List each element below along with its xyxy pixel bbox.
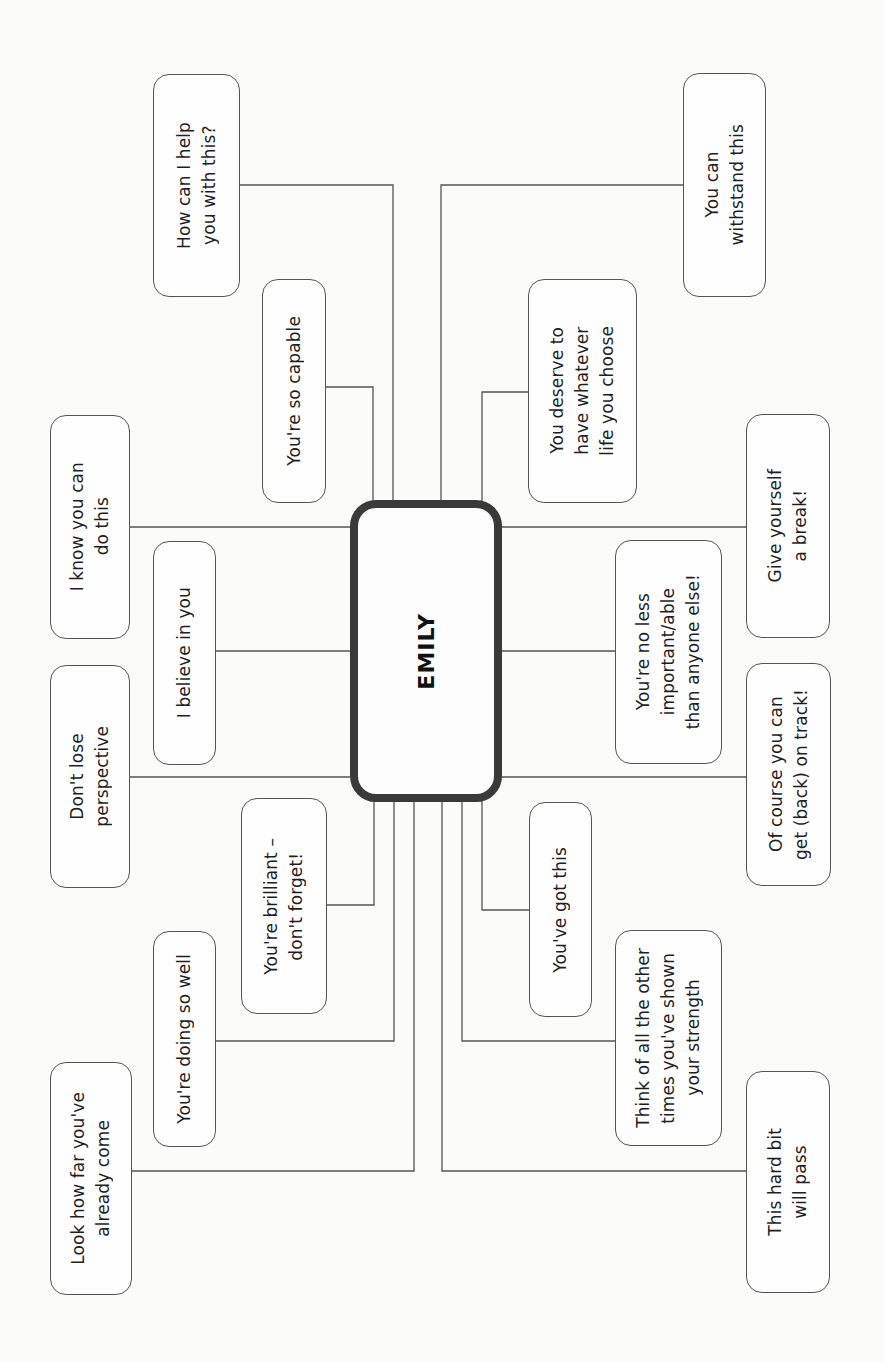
node-i-believe-in-you: I believe in you — [153, 541, 216, 765]
node-label: Of course you can get (back) on track! — [764, 689, 814, 860]
node-label: You can withstand this — [700, 124, 750, 245]
node-youre-doing-so-well: You're doing so well — [153, 931, 216, 1147]
node-label: You're brilliant – don't forget! — [259, 838, 309, 975]
connector-brilliant — [327, 800, 374, 905]
node-youre-so-capable: You're so capable — [262, 279, 326, 503]
node-label: Don't lose perspective — [65, 726, 115, 827]
node-label: Think of all the other times you've show… — [631, 948, 706, 1128]
node-youre-no-less: You're no less important/able than anyon… — [615, 540, 722, 764]
node-label: You deserve to have whatever life you ch… — [545, 326, 620, 456]
node-label: You're so capable — [282, 316, 307, 466]
central-node-emily: EMILY — [350, 500, 502, 802]
node-this-hard-bit-will-pass: This hard bit will pass — [746, 1071, 830, 1293]
node-label: You're no less important/able than anyon… — [631, 574, 706, 729]
node-look-how-far: Look how far you've already come — [50, 1062, 132, 1295]
node-label: This hard bit will pass — [763, 1128, 813, 1236]
node-give-yourself-a-break: Give yourself a break! — [746, 414, 830, 638]
node-dont-lose-perspective: Don't lose perspective — [50, 665, 130, 888]
connector-gotthis — [482, 800, 529, 910]
node-you-can-withstand-this: You can withstand this — [683, 73, 766, 297]
node-youre-brilliant: You're brilliant – don't forget! — [241, 798, 327, 1014]
node-youve-got-this: You've got this — [529, 802, 592, 1017]
node-label: I believe in you — [172, 587, 197, 718]
node-label: How can I help you with this? — [172, 122, 222, 249]
node-label: Give yourself a break! — [763, 469, 813, 582]
node-label: You've got this — [548, 847, 573, 973]
node-think-of-all-the-other-times: Think of all the other times you've show… — [615, 930, 722, 1146]
central-node-label: EMILY — [414, 613, 439, 690]
node-label: I know you can do this — [65, 462, 115, 591]
node-i-know-you-can-do-this: I know you can do this — [50, 415, 130, 639]
node-of-course-you-can: Of course you can get (back) on track! — [746, 663, 831, 886]
node-label: Look how far you've already come — [66, 1092, 116, 1265]
connector-capable — [326, 387, 373, 502]
node-how-can-i-help: How can I help you with this? — [153, 74, 240, 297]
connector-deserve — [482, 392, 528, 502]
node-label: You're doing so well — [172, 954, 197, 1124]
node-you-deserve-to: You deserve to have whatever life you ch… — [528, 279, 637, 503]
